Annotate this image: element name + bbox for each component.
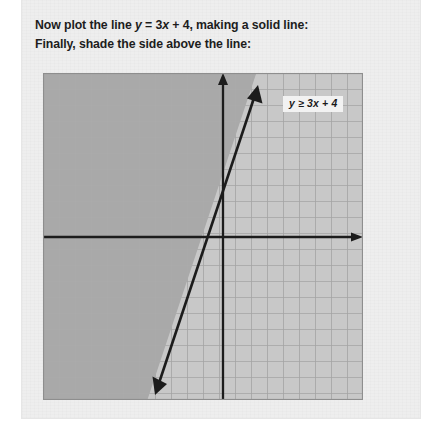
instruction-variable-x: x <box>162 18 169 32</box>
instruction-line-1-part-3: + 4, making a solid line: <box>169 18 308 32</box>
instruction-line-2: Finally, shade the side above the line: <box>35 35 365 54</box>
instruction-line-1-part-2: = 3 <box>142 18 162 32</box>
instruction-variable-y: y <box>135 18 142 32</box>
instruction-line-1-part-1: Now plot the line <box>35 18 135 32</box>
coordinate-graph <box>43 73 363 400</box>
instruction-text: Now plot the line y = 3x + 4, making a s… <box>35 16 365 54</box>
graph-svg <box>43 73 363 400</box>
screenshot-root: Now plot the line y = 3x + 4, making a s… <box>0 0 438 438</box>
instruction-line-1: Now plot the line y = 3x + 4, making a s… <box>35 16 365 35</box>
inequality-label: y ≥ 3x + 4 <box>283 96 343 112</box>
